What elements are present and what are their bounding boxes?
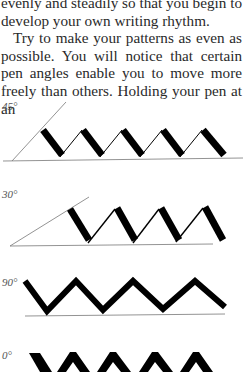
zigzag-90 [25,281,225,311]
pen-angle-illustrations [0,0,243,372]
pattern-0-degrees [29,352,213,372]
pattern-45-degrees [3,102,243,161]
thick-downstrokes-45 [43,130,224,155]
pattern-90-degrees [25,281,225,316]
baseline-45 [3,158,243,161]
thin-upstrokes-30 [88,208,203,243]
baseline-90 [25,314,225,316]
baseline-30 [10,244,213,246]
pattern-30-degrees [10,197,223,246]
